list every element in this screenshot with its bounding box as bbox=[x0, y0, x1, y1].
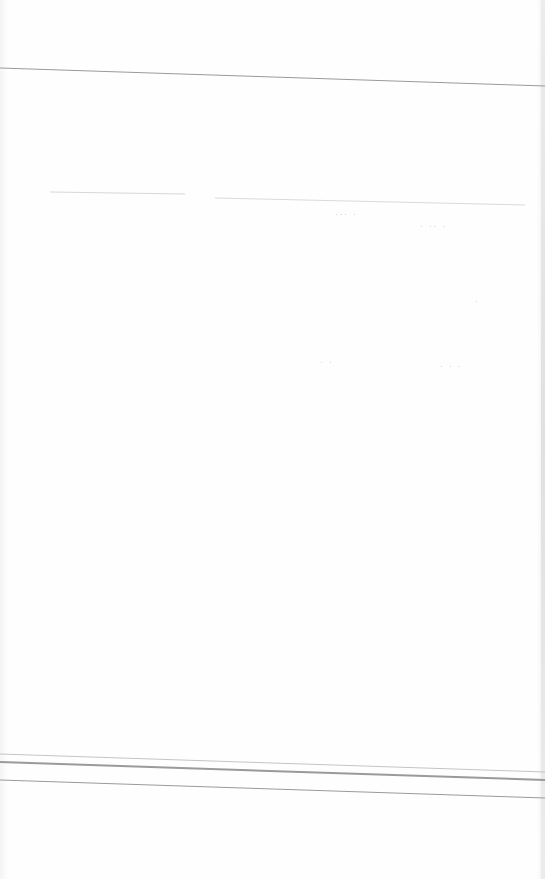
ruled-lines bbox=[0, 0, 545, 879]
bottom-rule-2 bbox=[0, 762, 545, 780]
bleed-through-mark: · bbox=[475, 297, 480, 306]
faint-rule-right bbox=[215, 198, 525, 205]
document-page: ··· · · ·· · · · · · · · bbox=[0, 0, 545, 879]
top-rule bbox=[0, 68, 545, 86]
faint-rule-left bbox=[50, 192, 185, 194]
bottom-rule-3 bbox=[0, 780, 545, 798]
bleed-through-mark: · ·· · bbox=[420, 222, 447, 231]
bottom-rule-1 bbox=[0, 754, 545, 772]
bleed-through-mark: · · bbox=[320, 358, 334, 367]
bleed-through-mark: · · · bbox=[440, 362, 462, 371]
bleed-through-mark: ··· · bbox=[335, 210, 358, 219]
